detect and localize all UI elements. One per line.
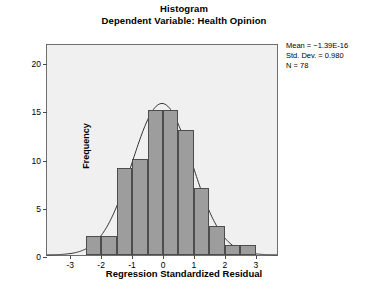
statistics-annotation: Mean = −1.39E-16 Std. Dev. = 0.980 N = 7… xyxy=(286,41,348,71)
histogram-bar xyxy=(225,245,240,255)
histogram-bar xyxy=(194,188,209,255)
histogram-figure: Histogram Dependent Variable: Health Opi… xyxy=(0,0,368,308)
chart-title: Histogram xyxy=(0,3,368,15)
y-axis-tick xyxy=(43,209,47,210)
chart-title-block: Histogram Dependent Variable: Health Opi… xyxy=(0,3,368,27)
histogram-bar xyxy=(209,226,224,255)
y-axis-tick-label: 10 xyxy=(32,156,41,165)
x-axis-tick xyxy=(70,255,71,259)
stat-n: N = 78 xyxy=(286,61,348,71)
y-axis-tick xyxy=(43,161,47,162)
y-axis-tick xyxy=(43,112,47,113)
x-axis-label: Regression Standardized Residual xyxy=(0,268,368,279)
x-axis-tick xyxy=(256,255,257,259)
plot-area: Frequency 05101520-3-2-10123 xyxy=(46,44,278,256)
y-axis-tick xyxy=(43,257,47,258)
x-axis-tick xyxy=(132,255,133,259)
stat-std-dev: Std. Dev. = 0.980 xyxy=(286,51,348,61)
histogram-bar xyxy=(240,245,255,255)
y-axis-tick-label: 15 xyxy=(32,108,41,117)
histogram-bar xyxy=(101,236,116,255)
x-axis-tick xyxy=(101,255,102,259)
histogram-bar xyxy=(132,159,147,255)
histogram-bar xyxy=(117,168,132,255)
x-axis-tick xyxy=(225,255,226,259)
x-axis-tick xyxy=(163,255,164,259)
histogram-bar xyxy=(86,236,101,255)
stat-mean: Mean = −1.39E-16 xyxy=(286,41,348,51)
y-axis-tick xyxy=(43,64,47,65)
y-axis-tick-label: 0 xyxy=(36,253,41,262)
y-axis-tick-label: 20 xyxy=(32,60,41,69)
histogram-bar xyxy=(163,110,178,255)
histogram-bar xyxy=(178,130,193,255)
y-axis-tick-label: 5 xyxy=(36,205,41,214)
histogram-bar xyxy=(148,110,163,255)
chart-subtitle: Dependent Variable: Health Opinion xyxy=(0,15,368,27)
x-axis-tick xyxy=(194,255,195,259)
y-axis-label: Frequency xyxy=(81,86,91,206)
